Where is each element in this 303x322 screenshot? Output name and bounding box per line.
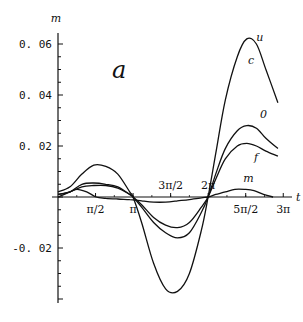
x-axis-title: t [296,191,301,204]
y-tick-label: 0. 06 [19,38,52,51]
series-lines [58,38,278,293]
y-tick-label: -0. 02 [12,242,52,255]
series-label-0: 0 [260,108,267,121]
x-tick-label: π/2 [87,203,105,216]
x-tick-label: 3π [276,203,290,216]
axis-ticks: 0. 060. 040. 02-0. 02π/2π3π/22π5π/23π [12,38,290,299]
x-tick-label: 5π/2 [233,203,258,216]
series-labels: uc0fm [243,31,267,184]
series-label-m: m [243,172,253,185]
series-label-u: u [256,31,263,44]
series-line-u [58,38,278,293]
series-label-c: c [248,54,254,67]
line-chart: 0. 060. 040. 02-0. 02π/2π3π/22π5π/23π uc… [0,0,303,322]
series-label-f: f [253,151,260,164]
y-tick-label: 0. 04 [19,89,52,102]
x-tick-label: 3π/2 [158,179,183,192]
panel-label: a [112,56,126,84]
y-axis-title: m [51,12,61,25]
y-tick-label: 0. 02 [19,140,52,153]
